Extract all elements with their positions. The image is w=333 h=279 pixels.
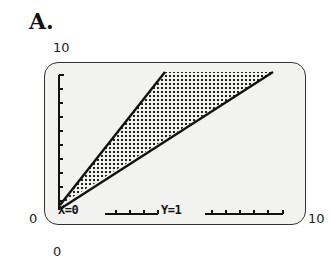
panel-label: A. xyxy=(29,8,54,34)
x-readout: X=0 xyxy=(58,203,78,217)
graph-plot xyxy=(45,63,305,224)
x-min-label: 0 xyxy=(53,244,61,259)
y-max-label: 10 xyxy=(53,40,70,55)
y-axis xyxy=(59,75,64,210)
x-axis xyxy=(105,210,283,214)
x-max-label: 10 xyxy=(308,211,325,226)
y-readout: Y=1 xyxy=(161,203,181,217)
calculator-screen: X=0 Y=1 xyxy=(44,62,306,225)
y-min-label: 0 xyxy=(29,211,37,226)
